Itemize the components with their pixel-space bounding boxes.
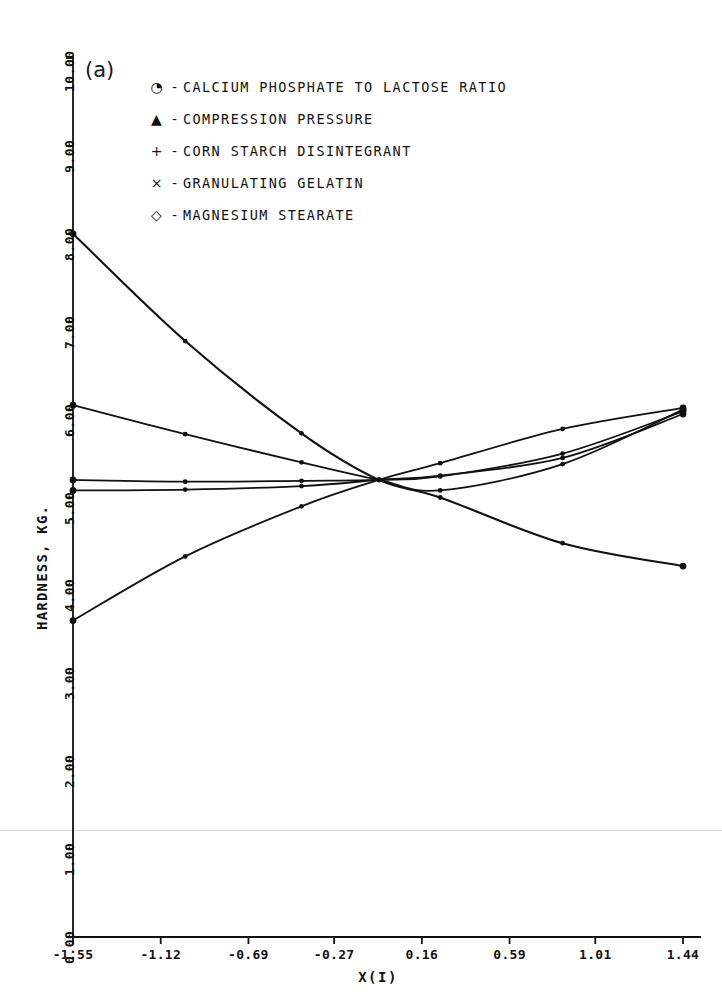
data-point-marker bbox=[183, 339, 188, 344]
data-point-marker bbox=[183, 479, 188, 484]
y-tick-label: 6.00 bbox=[62, 403, 77, 436]
legend-dash: - bbox=[166, 79, 183, 95]
data-point-marker bbox=[560, 427, 565, 432]
x-tick-label: 1.01 bbox=[579, 947, 612, 962]
data-point-marker bbox=[680, 563, 687, 570]
legend-item: ▲ - COMPRESSION PRESSURE bbox=[147, 103, 687, 135]
x-tick-label: -1.12 bbox=[140, 947, 181, 962]
legend-dash: - bbox=[166, 111, 183, 127]
data-point-marker bbox=[377, 478, 382, 483]
data-point-marker bbox=[438, 495, 443, 500]
x-tick-label: -1.55 bbox=[53, 947, 94, 962]
data-point-marker bbox=[560, 451, 565, 456]
figure-panel-a: (a) ◔ - CALCIUM PHOSPHATE TO LACTOSE RAT… bbox=[0, 0, 722, 997]
data-point-marker bbox=[438, 461, 443, 466]
x-tick-label: 0.16 bbox=[406, 947, 439, 962]
data-point-marker bbox=[680, 406, 687, 413]
data-point-marker bbox=[299, 460, 304, 465]
data-point-marker bbox=[560, 462, 565, 467]
legend-dash: - bbox=[166, 175, 183, 191]
data-point-marker bbox=[560, 456, 565, 461]
legend-item: × - GRANULATING GELATIN bbox=[147, 167, 687, 199]
legend-marker-circle-dot-icon: ◔ bbox=[147, 80, 166, 94]
data-point-marker bbox=[299, 484, 304, 489]
legend-item: + - CORN STARCH DISINTEGRANT bbox=[147, 135, 687, 167]
y-axis-title: HARDNESS, KG. bbox=[34, 505, 50, 630]
data-point-marker bbox=[183, 432, 188, 437]
y-tick-label: 5.00 bbox=[62, 491, 77, 524]
x-axis-title: X(I) bbox=[358, 969, 398, 985]
x-tick-label: -0.69 bbox=[228, 947, 269, 962]
legend-dash: - bbox=[166, 143, 183, 159]
y-tick-label: 8.00 bbox=[62, 227, 77, 260]
y-tick-label: 2.00 bbox=[62, 755, 77, 788]
data-point-marker bbox=[438, 488, 443, 493]
y-tick-label: 10.00 bbox=[62, 50, 77, 92]
y-tick-label: 9.00 bbox=[62, 140, 77, 173]
legend-marker-diamond-icon: ◇ bbox=[147, 208, 166, 222]
legend-marker-triangle-icon: ▲ bbox=[147, 112, 166, 126]
legend-label: MAGNESIUM STEARATE bbox=[183, 207, 355, 223]
data-point-marker bbox=[183, 487, 188, 492]
x-tick-label: -0.27 bbox=[314, 947, 355, 962]
legend-label: CALCIUM PHOSPHATE TO LACTOSE RATIO bbox=[183, 79, 507, 95]
data-point-marker bbox=[299, 504, 304, 509]
x-tick-label: 0.59 bbox=[493, 947, 526, 962]
chart-legend: ◔ - CALCIUM PHOSPHATE TO LACTOSE RATIO ▲… bbox=[147, 71, 687, 231]
data-point-marker bbox=[183, 554, 188, 559]
series-line bbox=[73, 234, 683, 566]
panel-label: (a) bbox=[85, 58, 114, 82]
legend-marker-plus-icon: + bbox=[147, 144, 166, 158]
data-point-marker bbox=[438, 474, 443, 479]
legend-label: GRANULATING GELATIN bbox=[183, 175, 364, 191]
legend-dash: - bbox=[166, 207, 183, 223]
legend-item: ◇ - MAGNESIUM STEARATE bbox=[147, 199, 687, 231]
legend-label: CORN STARCH DISINTEGRANT bbox=[183, 143, 412, 159]
data-point-marker bbox=[299, 478, 304, 483]
legend-item: ◔ - CALCIUM PHOSPHATE TO LACTOSE RATIO bbox=[147, 71, 687, 103]
y-tick-label: 1.00 bbox=[62, 843, 77, 876]
legend-marker-cross-icon: × bbox=[147, 176, 166, 190]
y-tick-label: 4.00 bbox=[62, 579, 77, 612]
x-tick-label: 1.44 bbox=[667, 947, 700, 962]
data-point-marker bbox=[70, 617, 77, 624]
y-tick-label: 3.00 bbox=[62, 667, 77, 700]
legend-label: COMPRESSION PRESSURE bbox=[183, 111, 374, 127]
data-point-marker bbox=[299, 431, 304, 436]
series-line bbox=[73, 408, 683, 621]
data-point-marker bbox=[70, 477, 77, 484]
data-point-marker bbox=[560, 541, 565, 546]
series-line bbox=[73, 411, 683, 481]
y-tick-label: 7.00 bbox=[62, 315, 77, 348]
